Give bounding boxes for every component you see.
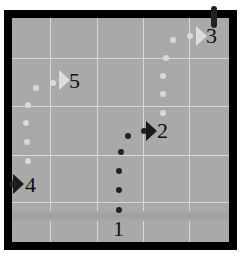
path-4-to-5-dot	[23, 120, 29, 126]
path-4-to-5-dot	[25, 158, 31, 164]
triangle-icon-2	[146, 121, 157, 141]
path-1-to-2-dot	[116, 168, 122, 174]
waypoint-label-4: 4	[25, 174, 36, 196]
path-2-to-3-dot	[160, 91, 166, 97]
path-1-to-2-dot	[116, 187, 122, 193]
path-2-to-3-dot	[160, 73, 166, 79]
path-1-to-2-dot	[116, 207, 122, 213]
path-4-to-5-dot	[33, 85, 39, 91]
waypoint-label-5: 5	[69, 70, 80, 92]
path-2-to-3-dot	[163, 55, 169, 61]
path-4-to-5-dot	[50, 80, 56, 86]
path-4-to-5-dot	[25, 102, 31, 108]
path-1-to-2-dot	[118, 149, 124, 155]
path-2-to-3-dot	[170, 37, 176, 43]
path-2-to-3-dot	[187, 33, 193, 39]
waypoint-label-3: 3	[206, 25, 217, 47]
path-2-to-3-dot	[160, 110, 166, 116]
path-4-to-5-dot	[24, 139, 30, 145]
waypoint-label-1: 1	[113, 218, 124, 240]
path-1-to-2-dot	[125, 133, 131, 139]
edge-marker-left	[10, 181, 17, 188]
waypoint-label-2: 2	[157, 120, 168, 142]
